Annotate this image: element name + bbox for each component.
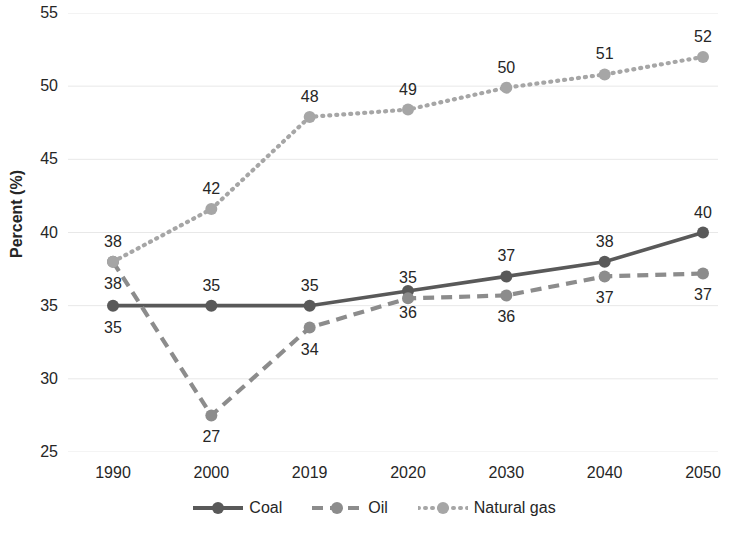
data-point-marker bbox=[402, 104, 414, 116]
data-point-marker bbox=[304, 111, 316, 123]
data-point-label: 27 bbox=[186, 429, 236, 445]
x-axis-tick-label: 2020 bbox=[368, 465, 448, 481]
data-point-marker bbox=[205, 409, 217, 421]
data-point-marker bbox=[304, 322, 316, 334]
data-point-marker bbox=[500, 289, 512, 301]
legend-swatch-icon bbox=[418, 500, 468, 516]
y-axis-tick-label: 35 bbox=[20, 298, 58, 314]
x-axis-tick-label: 2000 bbox=[171, 465, 251, 481]
data-point-label: 35 bbox=[383, 270, 433, 286]
data-point-marker bbox=[107, 256, 119, 268]
data-point-marker bbox=[402, 292, 414, 304]
data-point-marker bbox=[500, 82, 512, 94]
chart-legend: CoalOilNatural gas bbox=[0, 500, 749, 516]
data-point-marker bbox=[500, 270, 512, 282]
data-point-marker bbox=[599, 270, 611, 282]
y-axis-tick-label: 40 bbox=[20, 225, 58, 241]
y-axis-tick-label: 45 bbox=[20, 151, 58, 167]
data-point-label: 52 bbox=[678, 29, 728, 45]
data-point-marker bbox=[697, 227, 709, 239]
legend-item-coal[interactable]: Coal bbox=[193, 500, 282, 516]
data-point-label: 48 bbox=[285, 89, 335, 105]
data-point-label: 38 bbox=[88, 234, 138, 250]
data-point-label: 36 bbox=[383, 305, 433, 321]
legend-item-oil[interactable]: Oil bbox=[312, 500, 388, 516]
legend-swatch-icon bbox=[312, 500, 362, 516]
data-point-label: 49 bbox=[383, 82, 433, 98]
series-lines bbox=[68, 13, 718, 452]
data-point-marker bbox=[697, 51, 709, 63]
y-axis-tick-label: 25 bbox=[20, 444, 58, 460]
data-point-label: 51 bbox=[580, 46, 630, 62]
y-axis-ticks: 25303540455055 bbox=[14, 0, 58, 480]
legend-swatch-icon bbox=[193, 500, 243, 516]
data-point-label: 35 bbox=[285, 278, 335, 294]
data-point-label: 35 bbox=[88, 320, 138, 336]
data-point-label: 35 bbox=[186, 278, 236, 294]
data-point-label: 37 bbox=[678, 287, 728, 303]
data-point-label: 50 bbox=[481, 60, 531, 76]
data-point-label: 38 bbox=[88, 276, 138, 292]
data-point-label: 38 bbox=[580, 234, 630, 250]
x-axis-tick-label: 2030 bbox=[466, 465, 546, 481]
y-axis-tick-label: 55 bbox=[20, 5, 58, 21]
data-point-label: 37 bbox=[580, 290, 630, 306]
x-axis-tick-label: 1990 bbox=[73, 465, 153, 481]
data-point-marker bbox=[599, 68, 611, 80]
data-point-marker bbox=[697, 267, 709, 279]
legend-item-natural-gas[interactable]: Natural gas bbox=[418, 500, 556, 516]
x-axis-tick-label: 2040 bbox=[565, 465, 645, 481]
legend-label: Oil bbox=[368, 500, 388, 516]
data-point-label: 37 bbox=[481, 248, 531, 264]
legend-label: Coal bbox=[249, 500, 282, 516]
data-point-marker bbox=[205, 203, 217, 215]
data-point-marker bbox=[599, 256, 611, 268]
data-point-label: 40 bbox=[678, 205, 728, 221]
data-point-marker bbox=[107, 300, 119, 312]
data-point-label: 34 bbox=[285, 342, 335, 358]
data-point-label: 42 bbox=[186, 181, 236, 197]
x-axis-tick-label: 2019 bbox=[270, 465, 350, 481]
y-axis-tick-label: 50 bbox=[20, 78, 58, 94]
line-chart: Percent (%) 25303540455055 3535353637384… bbox=[0, 0, 749, 536]
x-axis-tick-label: 2050 bbox=[663, 465, 743, 481]
plot-area: 3535353637384038273435363737384248495051… bbox=[68, 13, 718, 452]
data-point-label: 36 bbox=[481, 309, 531, 325]
legend-label: Natural gas bbox=[474, 500, 556, 516]
y-axis-tick-label: 30 bbox=[20, 371, 58, 387]
data-point-marker bbox=[205, 300, 217, 312]
data-point-marker bbox=[304, 300, 316, 312]
